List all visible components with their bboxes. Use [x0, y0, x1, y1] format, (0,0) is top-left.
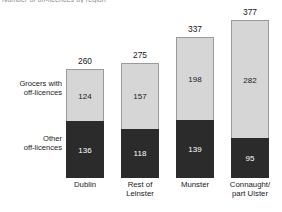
category-axis-labels: DublinRest ofLeinsterMunsterConnaught/pa…: [62, 180, 282, 210]
category-label: Munster: [167, 180, 223, 189]
bar-group[interactable]: 275157118: [121, 63, 159, 178]
bar-total-label: 337: [170, 24, 220, 34]
category-label: Rest ofLeinster: [112, 180, 168, 199]
category-label-line: Leinster: [126, 189, 154, 198]
legend-other-line1: Other: [43, 134, 62, 143]
bar-segment-grocers-with-off-licences[interactable]: 157: [121, 63, 159, 129]
legend-grocers-line2: off-licences: [24, 88, 62, 97]
category-label: Dublin: [57, 180, 113, 189]
bar-total-label: 260: [60, 56, 110, 66]
bar-segment-value: 282: [232, 75, 268, 84]
bar-segment-other-off-licences[interactable]: 136: [66, 121, 104, 178]
category-label-line: Munster: [181, 180, 209, 189]
bars-container: 26012413627515711833719813937728295: [62, 6, 282, 178]
bar-segment-grocers-with-off-licences[interactable]: 124: [66, 69, 104, 121]
legend-label-other-off-licences: Other off-licences: [0, 134, 62, 152]
category-label-line: Connaught/: [230, 180, 270, 189]
bar-column[interactable]: 157118: [121, 63, 159, 178]
legend-label-grocers-with-off-licences: Grocers with off-licences: [0, 79, 62, 97]
bar-segment-value: 95: [231, 154, 269, 163]
bar-segment-value: 157: [122, 92, 158, 101]
bar-group[interactable]: 337198139: [176, 37, 214, 178]
bar-segment-value: 198: [177, 74, 213, 83]
bar-segment-value: 124: [67, 91, 103, 100]
bar-segment-grocers-with-off-licences[interactable]: 282: [231, 20, 269, 138]
bar-segment-value: 139: [176, 144, 214, 153]
bar-segment-other-off-licences[interactable]: 139: [176, 120, 214, 178]
category-label-line: Dublin: [74, 180, 96, 189]
bar-segment-other-off-licences[interactable]: 118: [121, 129, 159, 178]
legend-other-line2: off-licences: [24, 143, 62, 152]
bar-total-label: 275: [115, 50, 165, 60]
bar-column[interactable]: 124136: [66, 69, 104, 178]
bar-segment-value: 136: [66, 145, 104, 154]
bar-segment-other-off-licences[interactable]: 95: [231, 138, 269, 178]
bar-column[interactable]: 198139: [176, 37, 214, 178]
bar-segment-value: 118: [121, 149, 159, 158]
bar-group[interactable]: 260124136: [66, 69, 104, 178]
category-label-line: part Ulster: [232, 189, 268, 198]
legend-grocers-line1: Grocers with: [19, 79, 62, 88]
bar-group[interactable]: 37728295: [231, 20, 269, 178]
bar-total-label: 377: [225, 7, 275, 17]
category-label: Connaught/part Ulster: [222, 180, 278, 199]
bar-column[interactable]: 28295: [231, 20, 269, 178]
series-legend: Grocers with off-licences Other off-lice…: [0, 6, 62, 178]
category-label-line: Rest of: [128, 180, 153, 189]
chart-plot-area: Grocers with off-licences Other off-lice…: [0, 6, 282, 212]
clipped-chart-title: Number of off-licences by region: [2, 0, 152, 3]
bar-segment-grocers-with-off-licences[interactable]: 198: [176, 37, 214, 120]
